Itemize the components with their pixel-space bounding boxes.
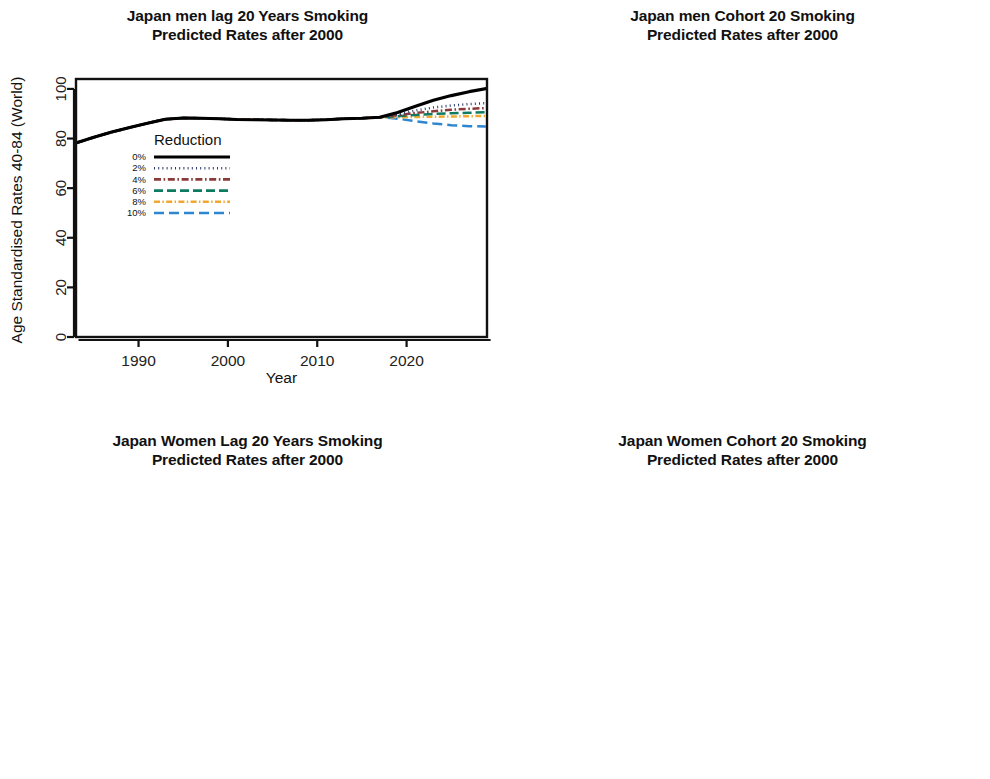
legend-title: Reduction — [154, 131, 222, 148]
x-axis-tick-label: 2010 — [300, 352, 335, 369]
chart-svg: 0204060801001990200020102020Age Standard… — [0, 0, 495, 390]
legend-label-8pct: 8% — [132, 196, 146, 207]
x-axis-tick-label: 2020 — [389, 352, 424, 369]
y-axis-tick-label: 20 — [52, 279, 69, 296]
chart-panel-japan-women-lag-20: Japan Women Lag 20 Years Smoking Predict… — [0, 390, 495, 779]
chart-panel-japan-women-cohort-20: Japan Women Cohort 20 Smoking Predicted … — [495, 390, 990, 779]
x-axis-tick-label: 2000 — [211, 352, 246, 369]
y-axis-title: Age Standardised Rates 40-84 (World) — [8, 77, 25, 344]
chart-svg: 0510152025301990200020102020Age Standard… — [0, 390, 495, 779]
x-axis-title: Year — [266, 369, 297, 386]
legend-label-0pct: 0% — [132, 151, 146, 162]
figure-grid: Japan men lag 20 Years Smoking Predicted… — [0, 0, 990, 779]
x-axis-tick-label: 1990 — [121, 352, 156, 369]
chart-panel-japan-men-cohort-20: Japan men Cohort 20 Smoking Predicted Ra… — [495, 0, 990, 390]
legend-label-6pct: 6% — [132, 185, 146, 196]
legend-label-10pct: 10% — [127, 207, 147, 218]
y-axis-tick-label: 80 — [52, 130, 69, 147]
y-axis-tick-label: 0 — [52, 333, 69, 341]
legend-label-2pct: 2% — [132, 162, 146, 173]
y-axis-tick-label: 40 — [52, 229, 69, 246]
y-axis-tick-label: 100 — [52, 76, 69, 101]
chart-svg: 0204060801001990200020102020Age Standard… — [495, 0, 990, 390]
chart-panel-japan-men-lag-20: Japan men lag 20 Years Smoking Predicted… — [0, 0, 495, 390]
chart-svg: 051015201990200020102020Age Standardised… — [495, 390, 990, 779]
legend-label-4pct: 4% — [132, 174, 146, 185]
y-axis-tick-label: 60 — [52, 180, 69, 197]
